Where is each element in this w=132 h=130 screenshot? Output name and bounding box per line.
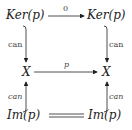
edge-label-p: p	[64, 60, 69, 69]
node-ker-top-left: Ker(p)	[6, 8, 45, 22]
node-im-bottom-right: Im(p)	[88, 108, 121, 122]
node-ker-top-right: Ker(p)	[87, 8, 126, 22]
edge-label-can-right-upper: can	[109, 40, 123, 49]
edge-label-can-left-lower: can	[8, 92, 22, 101]
node-x-left: X	[22, 65, 31, 79]
edge-label-zero: 0	[63, 4, 68, 13]
edge-label-can-left-upper: can	[8, 40, 22, 49]
node-x-right: X	[102, 65, 111, 79]
node-im-bottom-left: Im(p)	[7, 108, 40, 122]
edge-label-can-right-lower: can	[109, 92, 123, 101]
